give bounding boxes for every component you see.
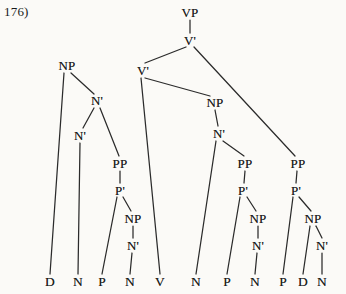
tree-node-nbar-right: N' [316, 239, 328, 252]
tree-node-vbar-top: V' [184, 34, 196, 47]
tree-terminal-t6: N [191, 275, 201, 289]
tree-edge-vbar-mid-to-t5 [141, 78, 160, 274]
tree-terminal-t7: P [223, 275, 231, 289]
tree-edge-np-left-to-nbar-l1 [71, 73, 94, 94]
tree-edge-vbar-top-to-vbar-mid [145, 47, 186, 63]
tree-edge-pp-right-to-pbar-right [296, 171, 297, 183]
tree-branch-lines [0, 0, 346, 294]
tree-terminal-t1: D [45, 275, 55, 289]
tree-edge-nbar-mid2-to-t8 [255, 253, 257, 274]
tree-terminal-t8: N [250, 275, 260, 289]
tree-edge-pbar-right-to-np-right [299, 197, 311, 211]
syntax-tree-figure: 176) VPV'V'NPN'N'PPP'NPN'NPN'PPP'NPN'PPP… [0, 0, 346, 294]
tree-terminal-t2: N [73, 275, 83, 289]
tree-edge-nbar-mid-to-t6 [196, 141, 216, 274]
tree-edge-np-right-to-nbar-right [316, 226, 322, 238]
tree-node-nbar-l3: N' [127, 239, 139, 252]
tree-node-pbar-left: P' [115, 184, 125, 197]
tree-edge-vbar-mid-to-np-mid [145, 78, 210, 96]
tree-node-np-mid: NP [206, 96, 223, 109]
tree-node-pp-left: PP [113, 157, 128, 170]
tree-terminal-t3: P [98, 275, 106, 289]
tree-node-nbar-mid: N' [213, 127, 225, 140]
tree-node-np-l3: NP [124, 212, 141, 225]
tree-node-pbar-right: P' [291, 184, 301, 197]
tree-edge-pbar-mid-to-t7 [227, 197, 240, 274]
tree-node-np-mid2: NP [249, 212, 266, 225]
tree-edge-nbar-l2-to-t2 [78, 143, 80, 274]
tree-terminal-t10: D [298, 275, 308, 289]
tree-node-np-left: NP [58, 59, 75, 72]
tree-node-np-right: NP [304, 212, 321, 225]
tree-edge-np-right-to-t10 [303, 226, 310, 274]
tree-edge-nbar-l1-to-pp-left [100, 108, 119, 156]
tree-edge-pp-mid-to-pbar-mid [244, 171, 245, 183]
tree-edge-pbar-mid-to-np-mid2 [247, 197, 256, 211]
tree-terminal-t5: V [155, 275, 165, 289]
tree-terminal-t9: P [279, 275, 287, 289]
tree-node-nbar-l2: N' [74, 129, 86, 142]
tree-edge-nbar-l1-to-nbar-l2 [83, 108, 94, 128]
tree-node-vp: VP [181, 6, 198, 19]
tree-edge-pbar-left-to-t3 [102, 197, 117, 274]
tree-edge-nbar-l3-to-t4 [130, 253, 132, 274]
tree-edge-nbar-mid-to-pp-mid [223, 141, 244, 156]
tree-edge-pbar-right-to-t9 [283, 197, 293, 274]
tree-node-pp-right: PP [291, 157, 306, 170]
tree-node-pbar-mid: P' [238, 184, 248, 197]
tree-node-nbar-mid2: N' [252, 239, 264, 252]
tree-terminal-t11: N [317, 275, 327, 289]
tree-edge-np-left-to-t1 [50, 73, 64, 274]
tree-terminal-t4: N [125, 275, 135, 289]
tree-node-vbar-mid: V' [137, 64, 149, 77]
tree-node-pp-mid: PP [238, 157, 253, 170]
tree-edge-np-mid-to-nbar-mid [215, 110, 218, 126]
tree-edge-pbar-left-to-np-l3 [123, 197, 131, 211]
tree-node-nbar-l1: N' [91, 94, 103, 107]
